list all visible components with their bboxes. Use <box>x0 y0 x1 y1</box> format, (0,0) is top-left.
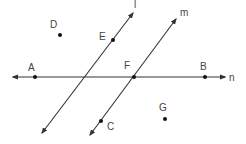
point-A <box>33 75 37 79</box>
point-label-A: A <box>28 62 35 73</box>
point-E <box>111 38 115 42</box>
line-label-n: n <box>229 72 235 83</box>
line-l <box>42 13 133 133</box>
line-label-m: m <box>180 7 188 18</box>
point-D <box>58 33 62 37</box>
point-G <box>163 117 167 121</box>
points-layer: ABCDEFG <box>28 19 207 132</box>
point-label-D: D <box>50 19 57 30</box>
point-label-F: F <box>124 60 130 71</box>
point-label-E: E <box>99 31 106 42</box>
point-F <box>132 75 136 79</box>
diagram-canvas: lmn ABCDEFG <box>0 0 246 144</box>
geometry-diagram: lmn ABCDEFG <box>0 0 246 144</box>
point-B <box>203 75 207 79</box>
line-label-l: l <box>134 0 136 10</box>
point-C <box>99 119 103 123</box>
point-label-B: B <box>200 61 207 72</box>
point-label-G: G <box>159 102 167 113</box>
point-label-C: C <box>107 121 114 132</box>
